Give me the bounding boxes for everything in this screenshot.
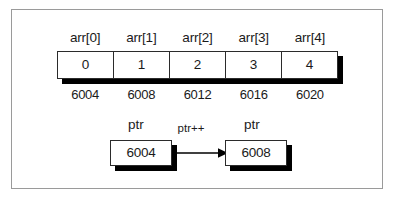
- array-index-label: arr[1]: [113, 28, 169, 48]
- array-address-label: 6012: [169, 86, 225, 104]
- pointer-before-label: ptr: [106, 116, 166, 134]
- pointer-after-value: 6008: [225, 140, 287, 166]
- array-index-label: arr[2]: [169, 28, 225, 48]
- array-address-row: 6004 6008 6012 6016 6020: [57, 86, 338, 104]
- array-index-label: arr[0]: [57, 28, 113, 48]
- pointer-before-container: 6004: [110, 140, 172, 166]
- diagram-canvas: arr[0] arr[1] arr[2] arr[3] arr[4] 0 1 2…: [0, 0, 396, 201]
- array-address-label: 6008: [113, 86, 169, 104]
- array-container: 0 1 2 3 4: [57, 51, 338, 79]
- array-cells: 0 1 2 3 4: [57, 51, 338, 79]
- array-cell: 1: [114, 52, 170, 78]
- array-cell: 0: [58, 52, 114, 78]
- arrow-right-icon: [172, 147, 228, 159]
- array-address-label: 6004: [57, 86, 113, 104]
- array-cell: 4: [282, 52, 337, 78]
- array-index-label-row: arr[0] arr[1] arr[2] arr[3] arr[4]: [57, 28, 338, 48]
- array-address-label: 6016: [226, 86, 282, 104]
- array-cell: 2: [170, 52, 226, 78]
- pointer-operation-label: ptr++: [163, 119, 219, 137]
- pointer-after-label: ptr: [222, 116, 282, 134]
- array-address-label: 6020: [282, 86, 338, 104]
- pointer-after-container: 6008: [225, 140, 287, 166]
- array-index-label: arr[4]: [282, 28, 338, 48]
- array-cell: 3: [226, 52, 282, 78]
- array-index-label: arr[3]: [226, 28, 282, 48]
- pointer-before-value: 6004: [110, 140, 172, 166]
